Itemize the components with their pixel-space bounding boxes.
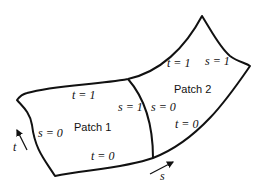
outer-boundary [17,16,250,176]
patch-diagram: Patch 1 Patch 2 t = 1 s = 0 t = 0 s = 1 … [0,0,264,188]
p1-right-label: s = 1 [118,100,143,114]
shared-edge [128,79,153,158]
p1-top-label: t = 1 [72,88,95,102]
t-arrow-icon [17,130,27,150]
p1-bottom-label: t = 0 [91,149,114,163]
p2-bottom-label: t = 0 [175,117,198,131]
p1-left-label: s = 0 [38,126,63,140]
p2-top-label: t = 1 [167,56,190,70]
t-axis-label: t [13,140,17,154]
p2-left-label: s = 0 [151,100,176,114]
s-axis-label: s [160,169,165,183]
patch-1-label: Patch 1 [74,121,111,133]
p2-right-label: s = 1 [205,54,230,68]
patch-2-label: Patch 2 [174,83,211,95]
